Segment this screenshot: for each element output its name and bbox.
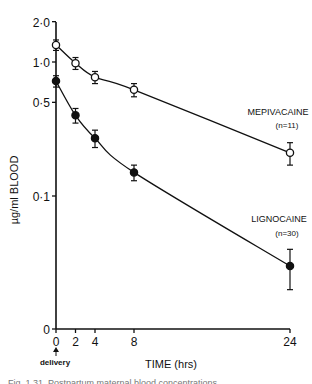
open-circle-marker: [91, 74, 98, 81]
x-tick-label: 24: [283, 335, 297, 349]
figure-caption: Fig. 1.31. Postpartum maternal blood con…: [8, 377, 308, 384]
x-ticks: 024824: [53, 329, 297, 349]
y-tick-label: 0: [43, 323, 50, 337]
x-tick-label: 0: [53, 335, 60, 349]
svg-text:(n=11): (n=11): [276, 121, 299, 130]
y-tick-label: 1·0: [33, 56, 51, 70]
open-circle-marker: [130, 86, 137, 93]
series-mepivacaine: [52, 40, 293, 165]
open-circle-marker: [72, 60, 79, 67]
y-ticks: 00·10·51·02·0: [33, 16, 56, 337]
svg-text:delivery: delivery: [40, 358, 71, 367]
filled-circle-marker: [72, 112, 79, 119]
open-circle-marker: [52, 41, 59, 48]
chart-canvas: 00·10·51·02·0 024824 µg/ml BLOOD TIME (h…: [0, 0, 312, 384]
y-tick-label: 0·1: [33, 190, 51, 204]
svg-text:MEPIVACAINE: MEPIVACAINE: [248, 107, 309, 117]
open-circle-marker: [286, 149, 293, 156]
y-tick-label: 0·5: [33, 96, 51, 110]
y-axis-label: µg/ml BLOOD: [8, 156, 20, 225]
x-tick-label: 8: [131, 335, 138, 349]
label-lignocaine: LIGNOCAINE (n=30): [251, 214, 307, 238]
filled-circle-marker: [91, 135, 98, 142]
delivery-annotation: delivery: [40, 347, 71, 367]
filled-circle-marker: [52, 78, 59, 85]
filled-circle-marker: [286, 262, 293, 269]
filled-circle-marker: [130, 169, 137, 176]
series-layer: [52, 40, 293, 290]
y-tick-label: 2·0: [33, 16, 51, 30]
svg-text:LIGNOCAINE: LIGNOCAINE: [251, 214, 307, 224]
x-tick-label: 2: [72, 335, 79, 349]
label-mepivacaine: MEPIVACAINE (n=11): [248, 107, 309, 130]
x-tick-label: 4: [92, 335, 99, 349]
x-axis-label: TIME (hrs): [145, 358, 197, 370]
svg-text:(n=30): (n=30): [275, 229, 299, 238]
